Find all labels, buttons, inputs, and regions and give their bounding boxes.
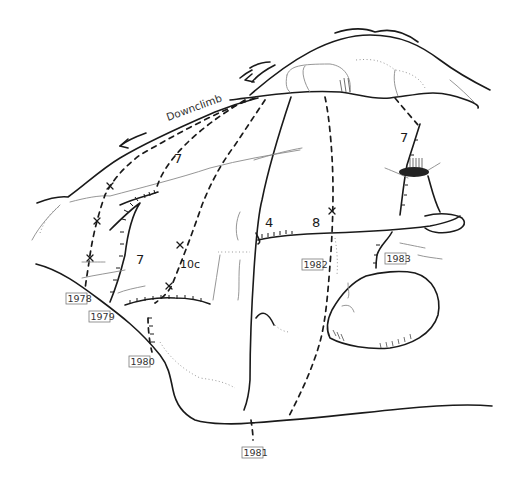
svg-text:1983: 1983 <box>387 253 411 264</box>
route-label-1983: 1983 <box>385 253 411 264</box>
grade-10c: 10c <box>180 258 200 271</box>
topo-drawing: Downclimb <box>0 0 517 479</box>
route-label-1980: 1980 <box>129 356 155 367</box>
svg-text:1981: 1981 <box>244 447 268 458</box>
route-1980 <box>148 318 152 352</box>
climbing-topo-diagram: Downclimb <box>0 0 517 479</box>
face-details-left <box>82 212 250 388</box>
route-1982 <box>288 97 333 418</box>
grade-8: 8 <box>312 215 320 230</box>
central-crack <box>244 97 302 410</box>
bolt-icon <box>107 183 113 189</box>
route-7-right <box>395 98 418 125</box>
grade-left-7-upper: 7 <box>174 151 182 166</box>
grades: 7 7 10c 4 8 7 <box>136 130 408 271</box>
svg-text:1980: 1980 <box>131 356 155 367</box>
left-flake <box>110 190 158 302</box>
boulder <box>328 272 439 349</box>
route-label-1981: 1981 <box>242 447 268 458</box>
route-10c <box>155 100 265 303</box>
svg-text:1982: 1982 <box>304 259 328 270</box>
svg-text:1978: 1978 <box>68 293 92 304</box>
wall-base <box>36 264 492 424</box>
svg-text:1979: 1979 <box>91 311 115 322</box>
route-label-1978: 1978 <box>66 293 92 304</box>
roof-shadow <box>399 167 429 177</box>
routes-right <box>251 97 442 440</box>
route-labels: 1978 1979 1980 1981 1982 1983 <box>66 253 411 458</box>
grade-right-7: 7 <box>400 130 408 145</box>
route-label-1982: 1982 <box>302 259 328 270</box>
grade-left-7-lower: 7 <box>136 252 144 267</box>
roof-hatching <box>385 158 440 212</box>
ledge <box>256 214 464 244</box>
arrow-left-icon <box>252 65 275 82</box>
route-1978 <box>85 98 255 290</box>
main-ridge <box>32 98 300 240</box>
downclimb-label: Downclimb <box>165 92 224 123</box>
bolts <box>87 183 335 289</box>
bolt-icon <box>177 242 183 248</box>
arrow-left-icon <box>120 133 146 146</box>
grade-4: 4 <box>265 215 273 230</box>
route-label-1979: 1979 <box>89 311 115 322</box>
downclimb-annotation: Downclimb <box>120 65 275 148</box>
